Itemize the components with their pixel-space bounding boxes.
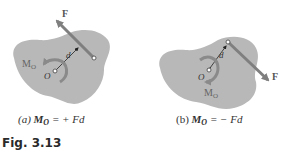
caption-a-prefix: (a) bbox=[18, 113, 31, 125]
point-o-a bbox=[53, 69, 57, 73]
force-point-b bbox=[226, 40, 230, 44]
caption-b-rhs: = − Fd bbox=[210, 113, 243, 125]
caption-b: (b) MO = − Fd bbox=[176, 113, 242, 127]
distance-label-b: d bbox=[219, 50, 224, 60]
point-o-b bbox=[207, 68, 211, 72]
caption-a-lhs: M bbox=[34, 113, 44, 125]
distance-label-a: d bbox=[66, 50, 71, 60]
force-label-a: F bbox=[62, 8, 68, 19]
panel-a: F MO O d bbox=[13, 8, 110, 104]
point-label-b: O bbox=[198, 72, 205, 82]
caption-a-rhs: = + Fd bbox=[52, 113, 85, 125]
caption-b-prefix: (b) bbox=[176, 113, 189, 125]
caption-b-lhs: M bbox=[192, 113, 202, 125]
diagram-canvas: F MO O d F MO O d bbox=[0, 0, 282, 153]
caption-b-sub: O bbox=[201, 118, 207, 127]
force-point-a bbox=[92, 56, 96, 60]
force-label-b: F bbox=[272, 71, 278, 82]
caption-a-sub: O bbox=[43, 118, 49, 127]
panel-b: F MO O d bbox=[159, 37, 278, 109]
rigid-body-b bbox=[159, 37, 258, 109]
point-label-a: O bbox=[44, 71, 51, 81]
figure-label: Fig. 3.13 bbox=[2, 136, 61, 150]
caption-a: (a) MO = + Fd bbox=[18, 113, 84, 127]
